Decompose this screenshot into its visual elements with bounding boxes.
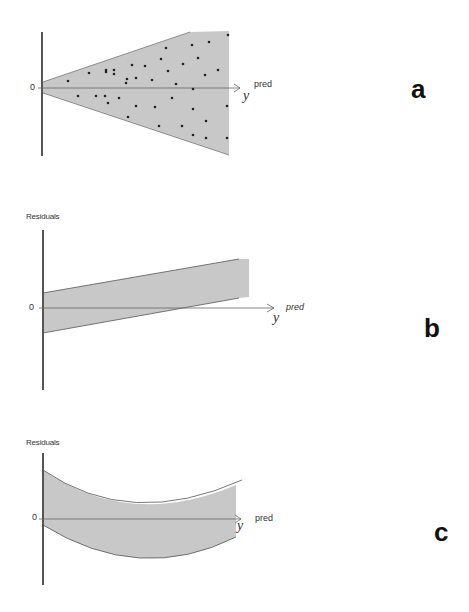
zero-label: 0: [29, 302, 34, 312]
residual-band: [43, 470, 236, 558]
zero-label: 0: [32, 512, 37, 522]
zero-label: 0: [30, 82, 35, 92]
x-axis-symbol: y: [243, 88, 249, 104]
funnel-band: [43, 31, 229, 155]
linear-band-plot: [0, 190, 469, 410]
curved-band-plot: [0, 410, 469, 612]
x-axis-symbol: y: [237, 518, 243, 534]
x-axis-subscript: pred: [254, 79, 272, 89]
panel-label-a: a: [411, 74, 425, 105]
panel-c: Residuals 0 y pred c: [0, 410, 469, 612]
x-axis-symbol: y: [273, 310, 279, 326]
funnel-plot: [0, 0, 469, 190]
x-axis-subscript: pred: [255, 513, 273, 523]
residual-band: [43, 259, 249, 333]
x-axis-subscript: pred: [286, 302, 304, 312]
panel-label-c: c: [434, 517, 448, 548]
panel-a: 0 y pred a: [0, 0, 469, 190]
panel-b: Residuals 0 y pred b: [0, 190, 469, 410]
panel-label-b: b: [424, 313, 440, 344]
